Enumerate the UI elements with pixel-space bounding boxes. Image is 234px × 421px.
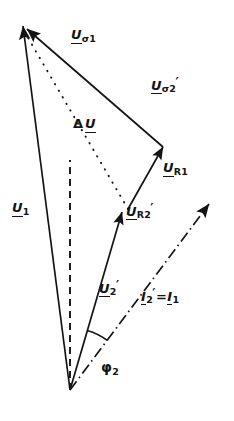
label-i1-subscript: 1 — [172, 294, 179, 305]
label-u2-prime: U2′ — [99, 279, 119, 297]
label-u-sigma2-prime: Uσ2′ — [151, 76, 179, 94]
label-u1: U1 — [12, 201, 29, 216]
label-delta-u-symbol: U — [85, 116, 96, 133]
label-u-r2-prime-symbol: U — [126, 204, 137, 221]
label-delta-u: ΔU — [73, 117, 96, 130]
vector-u-sigma2-prime — [128, 147, 163, 209]
label-phi2: φ2 — [101, 360, 119, 376]
label-u2-prime-symbol: U — [99, 281, 110, 298]
angle-arc-phi2 — [87, 330, 107, 340]
label-phi2-subscript: 2 — [112, 366, 119, 377]
label-u1-symbol: U — [12, 200, 23, 217]
label-u-r2-prime-mark: ′ — [150, 201, 153, 215]
label-u-sigma2-prime-subscript: σ2 — [162, 83, 176, 94]
label-u-r1: UR1 — [163, 161, 188, 176]
vector-layer — [23, 26, 209, 390]
label-equals-operator: = — [156, 289, 167, 304]
label-i2-prime-mark: ′ — [152, 286, 155, 300]
label-u-sigma1: Uσ1 — [71, 28, 96, 43]
label-u-sigma2-prime-mark: ′ — [175, 75, 178, 89]
label-u-sigma1-symbol: U — [71, 27, 82, 44]
label-u-r1-subscript: R1 — [174, 166, 188, 177]
label-u-r2-prime: UR2′ — [126, 202, 153, 220]
phasor-diagram-canvas — [0, 0, 234, 421]
label-u-r2-prime-subscript: R2 — [137, 209, 151, 220]
label-u2-prime-mark: ′ — [116, 278, 119, 292]
label-u1-subscript: 1 — [23, 206, 30, 217]
phasor-diagram: Uσ1 Uσ2′ ΔU UR1 UR2′ U1 U2′ I2′=I1 φ2 — [0, 0, 234, 421]
label-i2-prime-equals-i1: I2′=I1 — [141, 287, 179, 305]
label-phi2-symbol: φ — [101, 359, 112, 375]
label-u-sigma2-prime-symbol: U — [151, 78, 162, 95]
vector-u1 — [23, 26, 70, 390]
vector-i2-prime — [70, 204, 209, 390]
label-delta-u-prefix: Δ — [73, 116, 83, 131]
label-u-r1-symbol: U — [163, 160, 174, 177]
label-u-sigma1-subscript: σ1 — [82, 33, 96, 44]
